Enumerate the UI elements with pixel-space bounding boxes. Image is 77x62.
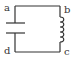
inductor-coil xyxy=(60,17,64,42)
lc-circuit-diagram: a b c d xyxy=(0,0,77,62)
label-a: a xyxy=(4,2,10,13)
label-b: b xyxy=(64,4,70,15)
label-d: d xyxy=(4,45,11,56)
label-c: c xyxy=(64,46,70,57)
